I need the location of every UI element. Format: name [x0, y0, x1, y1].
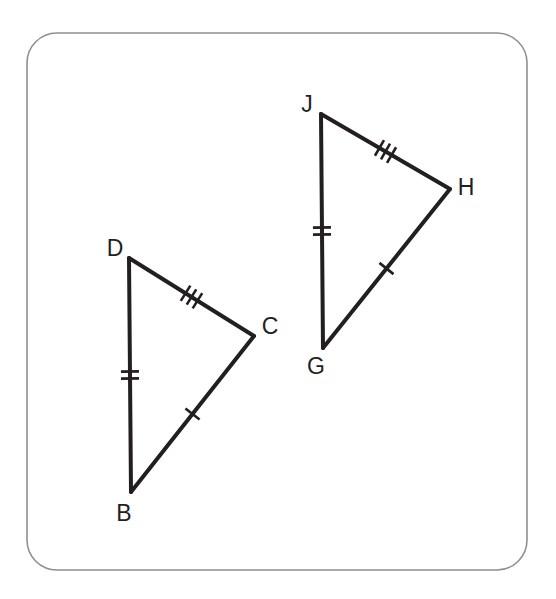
side-GJ — [321, 114, 323, 348]
vertex-label-D: D — [107, 235, 124, 261]
congruent-triangles-figure: DCB JHG — [0, 0, 556, 599]
vertex-label-J: J — [301, 91, 313, 117]
vertex-label-G: G — [307, 353, 325, 379]
vertex-label-C: C — [262, 313, 279, 339]
geometry-diagram-canvas: DCB JHG — [0, 0, 556, 599]
vertex-label-B: B — [116, 500, 131, 526]
side-BD — [129, 258, 131, 492]
figure-frame-border — [27, 33, 527, 570]
vertex-label-H: H — [458, 174, 475, 200]
